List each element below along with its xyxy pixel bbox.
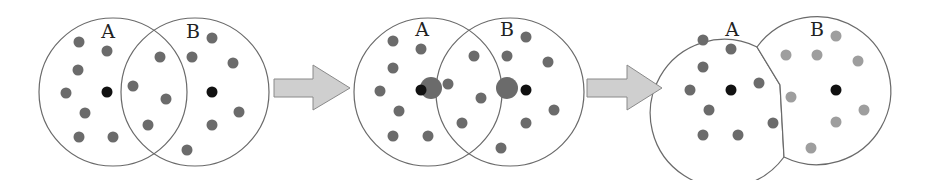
cluster-label-a: A (100, 20, 115, 42)
data-point (228, 58, 239, 69)
data-point (394, 106, 405, 117)
data-point (74, 132, 85, 143)
data-point (128, 81, 139, 92)
data-point (423, 131, 434, 142)
data-point-a (685, 85, 696, 96)
data-point-b (786, 92, 797, 103)
data-point-a (733, 130, 744, 141)
data-point-a (704, 105, 715, 116)
cluster-label-a: A (414, 18, 429, 40)
data-point-b (859, 105, 870, 116)
panel-initial-overlap: AB (39, 18, 269, 166)
data-point (521, 118, 532, 129)
data-point (207, 33, 218, 44)
centroid (207, 87, 218, 98)
cluster-label-b: B (810, 18, 824, 40)
centroid (416, 85, 427, 96)
data-point (143, 120, 154, 131)
data-point (443, 79, 454, 90)
data-point-a (768, 118, 779, 129)
data-point (476, 93, 487, 104)
data-point (73, 65, 84, 76)
centroid (102, 87, 113, 98)
data-point (102, 46, 113, 57)
data-point (108, 132, 119, 143)
data-point (496, 143, 507, 154)
data-point (521, 32, 532, 43)
data-point-b (806, 143, 817, 154)
data-point (61, 88, 72, 99)
panel-reassigned-clusters: AB (650, 17, 891, 180)
data-point (416, 44, 427, 55)
arrow-step-1-icon (274, 65, 350, 110)
data-point-b (781, 50, 792, 61)
data-point (502, 51, 513, 62)
cluster-region-a (650, 39, 784, 180)
cluster-label-a: A (724, 18, 739, 40)
data-point-a (698, 130, 709, 141)
centroid (521, 85, 532, 96)
data-point (388, 63, 399, 74)
data-point-b (853, 56, 864, 67)
data-point-a (698, 35, 709, 46)
data-point-a (698, 62, 709, 73)
panel-centroid-shift: AB (354, 18, 584, 166)
data-point (388, 131, 399, 142)
data-point (469, 51, 480, 62)
kmeans-step-diagram: ABABAB (0, 0, 931, 180)
data-point-b (831, 117, 842, 128)
data-point (161, 94, 172, 105)
data-point (80, 108, 91, 119)
data-point-a (754, 78, 765, 89)
cluster-label-b: B (500, 18, 514, 40)
data-point (187, 52, 198, 63)
data-point (74, 37, 85, 48)
data-point-a (726, 44, 737, 55)
data-point-b (831, 31, 842, 42)
data-point (207, 120, 218, 131)
data-point (388, 36, 399, 47)
cluster-label-b: B (186, 20, 200, 42)
data-point (234, 107, 245, 118)
data-point (549, 105, 560, 116)
centroid (726, 85, 737, 96)
centroid (831, 85, 842, 96)
data-point (375, 86, 386, 97)
data-point (182, 145, 193, 156)
new-centroid (496, 77, 518, 99)
data-point (457, 118, 468, 129)
data-point-b (812, 50, 823, 61)
data-point (155, 52, 166, 63)
data-point (543, 57, 554, 68)
